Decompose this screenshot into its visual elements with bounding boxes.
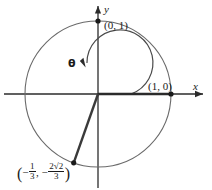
angle-arc: [87, 30, 153, 94]
coord-y-fraction: 2√23: [48, 162, 64, 182]
point-marker-1-0: [168, 91, 173, 96]
point-label-right: (1, 0): [148, 81, 172, 92]
point-marker-0-1: [95, 18, 100, 23]
terminal-point-coordinate-label: (−13, −2√23): [17, 162, 70, 182]
point-marker-terminal: [71, 160, 76, 165]
coord-x-fraction: 13: [29, 162, 36, 182]
coord-x-sign: −: [22, 166, 28, 178]
terminal-side-ray: [74, 94, 98, 163]
coord-y-sign: −: [42, 166, 48, 178]
x-axis-label: x: [193, 81, 198, 92]
theta-label: θ: [68, 58, 76, 69]
angle-arc-arrowhead: [79, 57, 87, 67]
coord-close-paren: ): [65, 165, 70, 182]
coord-x-denominator: 3: [29, 172, 36, 181]
unit-circle-figure: y x (0, 1) (1, 0) θ (−13, −2√23): [0, 0, 212, 190]
y-axis-label: y: [104, 4, 109, 15]
coord-comma: ,: [36, 166, 39, 178]
coord-y-denominator: 3: [48, 172, 64, 181]
y-axis-arrowhead: [95, 6, 101, 14]
point-label-top: (0, 1): [104, 20, 128, 31]
